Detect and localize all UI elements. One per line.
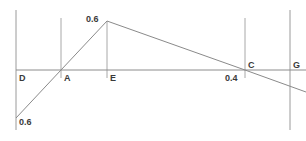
falling-line-segment: [107, 21, 306, 92]
point-label-g: G: [293, 60, 300, 70]
peak-value-label: 0.6: [86, 14, 99, 24]
line-diagram-svg: [0, 0, 306, 141]
crossing-value-label: 0.4: [225, 73, 238, 83]
point-label-e: E: [110, 73, 116, 83]
diagram-canvas: 0.6 0.6 0.4 D A E C G: [0, 0, 306, 141]
origin-value-label: 0.6: [19, 117, 32, 127]
point-label-c: C: [248, 60, 255, 70]
point-label-a: A: [64, 73, 71, 83]
point-label-d: D: [19, 73, 26, 83]
